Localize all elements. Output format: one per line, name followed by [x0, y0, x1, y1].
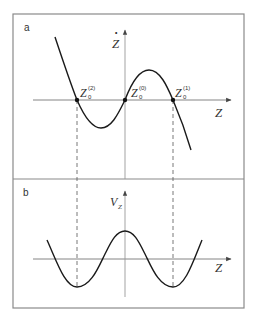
panel-b-y-label: V Z: [110, 195, 122, 211]
svg-text:Z: Z: [131, 86, 138, 100]
svg-text:Z: Z: [175, 86, 182, 100]
panel-b-x-label: Z: [215, 260, 223, 275]
svg-text:Z: Z: [118, 203, 122, 211]
figure: a Z · Z Z 0 (2) Z 0 (0) Z 0 (1): [0, 0, 256, 324]
panel-a: a Z · Z Z 0 (2) Z 0 (0) Z 0 (1): [24, 22, 231, 179]
frame: [13, 14, 244, 308]
svg-text:·: ·: [115, 26, 119, 40]
fixed-point-z0-2: [75, 98, 79, 102]
svg-text:0: 0: [183, 94, 187, 100]
svg-text:(1): (1): [183, 85, 190, 91]
label-z0-1: Z 0 (1): [175, 85, 190, 100]
fixed-point-z0-0: [123, 98, 127, 102]
label-z0-2: Z 0 (2): [80, 85, 95, 100]
svg-text:0: 0: [139, 94, 143, 100]
svg-text:0: 0: [88, 94, 92, 100]
panel-a-y-label: Z ·: [112, 26, 120, 51]
label-z0-0: Z 0 (0): [131, 85, 146, 100]
svg-text:(0): (0): [139, 85, 146, 91]
svg-text:Z: Z: [80, 86, 87, 100]
panel-b-label: b: [23, 187, 29, 198]
panel-a-x-label: Z: [215, 105, 223, 120]
panel-b: b V Z Z: [23, 187, 231, 297]
svg-text:(2): (2): [88, 85, 95, 91]
velocity-curve: [55, 37, 191, 150]
panel-a-label: a: [24, 22, 30, 33]
